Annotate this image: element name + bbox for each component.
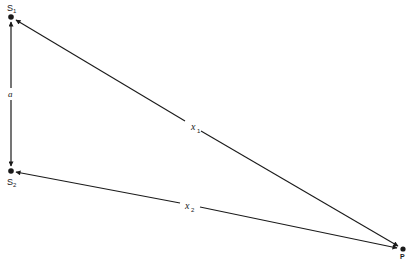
edge-x1-upper [16,20,185,121]
point-p-label: P [400,253,405,260]
point-s2-label: S 2 [7,177,17,188]
point-p [400,246,405,251]
edge-x2-label: x 2 [184,200,195,213]
svg-text:2: 2 [191,207,195,213]
edge-x1-label: x 1 [190,121,201,134]
svg-text:x: x [184,200,190,211]
point-s1-label: S 1 [7,3,17,14]
svg-text:1: 1 [13,8,17,14]
diagram: a x 1 x 2 S 1 S 2 P [0,0,414,260]
edge-x2-left [16,172,180,203]
svg-text:x: x [190,121,196,132]
edge-x1-lower [201,131,398,246]
point-s2 [8,168,14,174]
svg-text:2: 2 [13,182,17,188]
edge-a-label: a [8,89,13,99]
edge-x2-right [200,207,397,248]
svg-text:1: 1 [197,128,201,134]
point-s1 [8,14,14,20]
